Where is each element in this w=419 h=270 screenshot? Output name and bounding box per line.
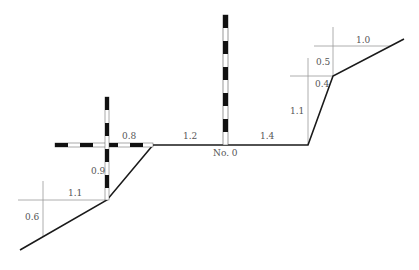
dimension-lines: [18, 27, 390, 237]
dim-label-right-upper-vertical: 0.5: [316, 57, 331, 67]
dim-label-left-lower-vertical: 0.6: [25, 212, 40, 222]
dim-label-right-upper-horizontal: 1.0: [356, 35, 371, 45]
dim-label-right-step: 0.4: [315, 79, 330, 89]
dim-label-left-lower-horizontal: 1.1: [68, 188, 82, 198]
cross-section-diagram: 0.6 1.1 0.9 0.8 1.2 1.4 1.1 0.4 0.5 1.0 …: [0, 0, 419, 270]
dimension-labels: 0.6 1.1 0.9 0.8 1.2 1.4 1.1 0.4 0.5 1.0 …: [25, 35, 371, 222]
dim-label-road-right: 1.4: [260, 131, 275, 141]
center-survey-pole: [223, 15, 228, 145]
station-label: No. 0: [213, 148, 238, 158]
horizontal-survey-pole: [55, 143, 153, 147]
dim-label-road-left: 1.2: [183, 131, 197, 141]
dim-label-left-upper-horizontal: 0.8: [122, 131, 137, 141]
dim-label-left-upper-vertical: 0.9: [91, 166, 106, 176]
left-survey-pole: [105, 97, 109, 200]
dim-label-right-lower-vertical: 1.1: [290, 106, 304, 116]
